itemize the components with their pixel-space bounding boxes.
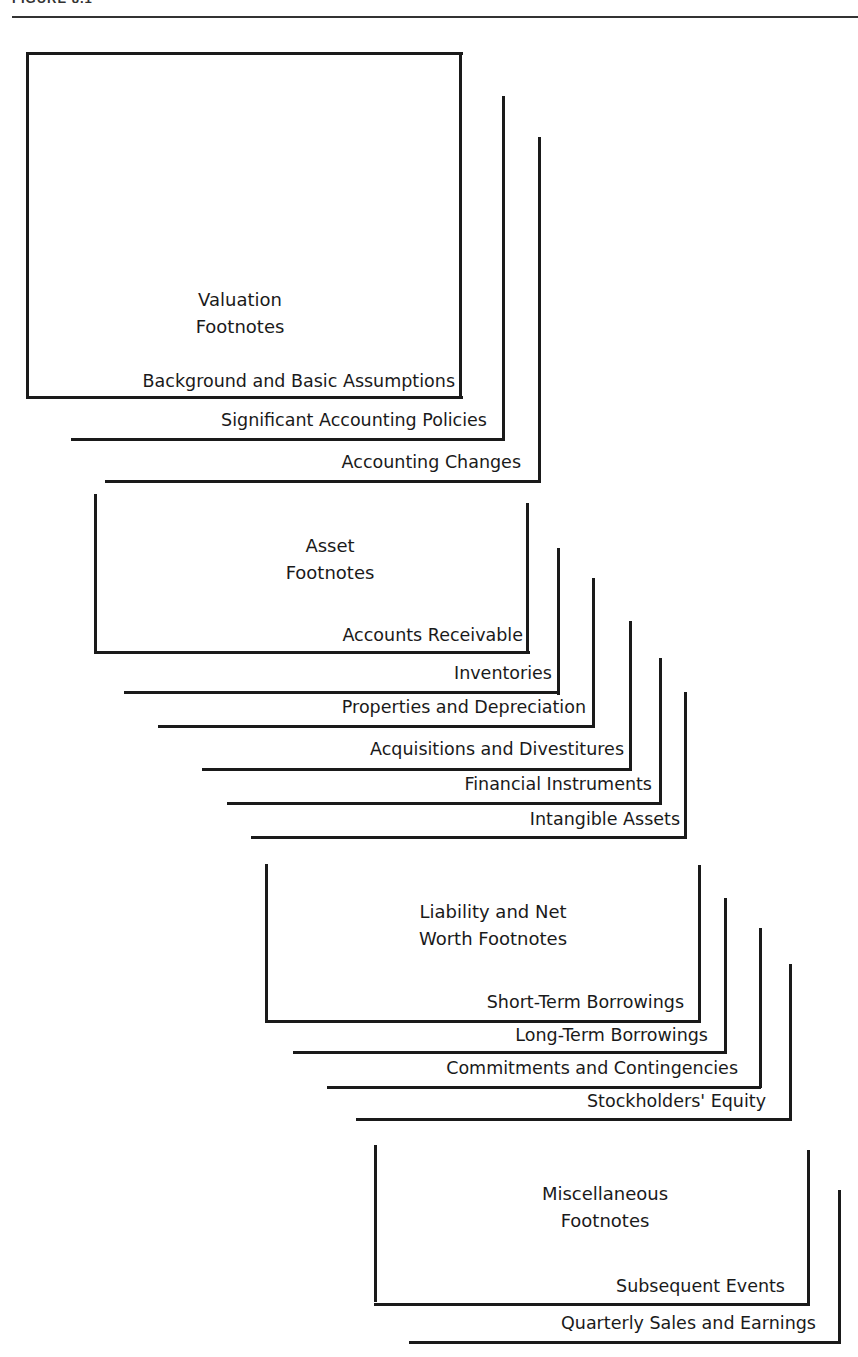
item-intangible-assets: Intangible Assets <box>530 811 680 829</box>
liability-layer4-bottom <box>356 1118 792 1121</box>
asset-layer6-right <box>684 692 687 839</box>
liability-box-left <box>265 864 268 1023</box>
asset-box-right <box>526 503 529 654</box>
liability-title: Liability and Net Worth Footnotes <box>408 898 578 952</box>
misc-box-right <box>807 1150 810 1306</box>
valuation-layer3-bottom <box>105 480 541 483</box>
liability-box-right <box>698 865 701 1023</box>
valuation-box-top <box>26 52 463 55</box>
liability-layer2-bottom <box>293 1051 727 1054</box>
misc-title: Miscellaneous Footnotes <box>530 1180 680 1234</box>
asset-layer4-bottom <box>202 768 632 771</box>
item-accounts-receivable: Accounts Receivable <box>342 627 523 645</box>
item-properties-depreciation: Properties and Depreciation <box>342 699 586 717</box>
liability-layer3-bottom <box>327 1086 761 1089</box>
item-accounting-changes: Accounting Changes <box>342 454 521 472</box>
liability-layer2-right <box>724 898 727 1053</box>
liability-layer4-right <box>789 964 792 1121</box>
asset-layer5-right <box>659 658 662 805</box>
item-financial-instruments: Financial Instruments <box>464 776 652 794</box>
item-quarterly-sales-earnings: Quarterly Sales and Earnings <box>561 1315 816 1333</box>
valuation-box-left <box>26 52 29 399</box>
valuation-title: Valuation Footnotes <box>170 286 310 340</box>
asset-layer4-right <box>629 621 632 771</box>
item-commitments-contingencies: Commitments and Contingencies <box>446 1060 738 1078</box>
misc-box-bottom <box>374 1303 810 1306</box>
asset-box-left <box>94 494 97 654</box>
valuation-box-bottom <box>26 396 463 399</box>
item-inventories: Inventories <box>454 665 552 683</box>
asset-title: Asset Footnotes <box>260 532 400 586</box>
asset-layer3-right <box>592 578 595 728</box>
asset-layer2-right <box>557 548 560 695</box>
liability-layer3-right <box>759 928 762 1088</box>
asset-layer6-bottom <box>251 836 687 839</box>
asset-box-bottom <box>94 651 530 654</box>
figure-header: FIGURE 8.1 <box>12 0 93 6</box>
item-short-term-borrowings: Short-Term Borrowings <box>487 994 684 1012</box>
asset-layer3-bottom <box>158 725 595 728</box>
valuation-box-right <box>459 52 462 399</box>
asset-layer5-bottom <box>227 802 662 805</box>
valuation-layer2-right <box>502 96 505 441</box>
liability-box-bottom <box>265 1020 701 1023</box>
valuation-layer2-bottom <box>71 438 505 441</box>
item-acquisitions-divestitures: Acquisitions and Divestitures <box>370 741 624 759</box>
item-long-term-borrowings: Long-Term Borrowings <box>515 1027 708 1045</box>
valuation-layer3-right <box>538 137 541 483</box>
item-stockholders-equity: Stockholders' Equity <box>587 1093 766 1111</box>
misc-layer2-right <box>838 1190 841 1344</box>
item-subsequent-events: Subsequent Events <box>616 1278 785 1296</box>
misc-box-left <box>374 1145 377 1302</box>
item-significant-policies: Significant Accounting Policies <box>221 412 487 430</box>
asset-layer2-bottom <box>124 691 560 694</box>
header-rule <box>12 16 858 18</box>
misc-layer2-bottom <box>409 1341 841 1344</box>
item-background-assumptions: Background and Basic Assumptions <box>143 373 455 391</box>
